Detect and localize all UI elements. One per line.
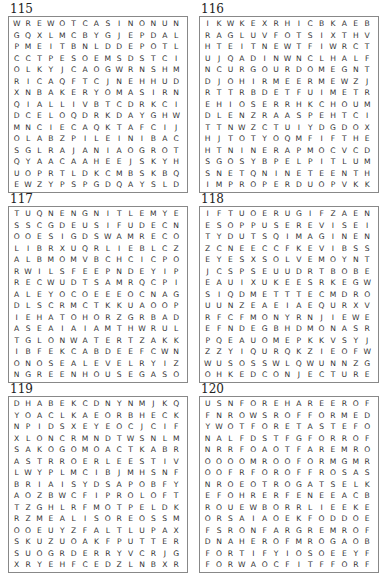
grid-letter: K bbox=[68, 398, 79, 410]
grid-letter: E bbox=[125, 346, 136, 358]
grid-letter: H bbox=[148, 76, 159, 88]
grid-letter: Z bbox=[236, 300, 247, 312]
grid-letter: U bbox=[213, 358, 224, 370]
grid-letter: Y bbox=[11, 410, 22, 422]
grid-letter: A bbox=[339, 323, 350, 335]
grid-letter: R bbox=[136, 358, 147, 370]
grid-letter: T bbox=[361, 254, 372, 266]
grid-letter: O bbox=[305, 456, 316, 468]
grid-letter: A bbox=[11, 456, 22, 468]
grid-letter: L bbox=[11, 467, 22, 479]
grid-letter: S bbox=[213, 525, 224, 537]
grid-letter: X bbox=[350, 300, 361, 312]
grid-letter: S bbox=[202, 168, 213, 180]
grid-letter: F bbox=[213, 323, 224, 335]
grid-letter: A bbox=[34, 133, 45, 145]
grid-letter: D bbox=[327, 513, 338, 525]
grid-letter: K bbox=[34, 444, 45, 456]
grid-letter: C bbox=[22, 53, 33, 65]
grid-letter: R bbox=[68, 433, 79, 445]
grid-letter: U bbox=[34, 536, 45, 548]
grid-letter: I bbox=[202, 208, 213, 220]
grid-letter: C bbox=[159, 220, 170, 232]
grid-letter: A bbox=[339, 208, 350, 220]
grid-letter: D bbox=[68, 548, 79, 560]
grid-letter: I bbox=[236, 41, 247, 53]
grid-letter: O bbox=[316, 513, 327, 525]
grid-letter: G bbox=[361, 358, 372, 370]
grid-letter: O bbox=[225, 220, 236, 232]
grid-letter: T bbox=[11, 335, 22, 347]
grid-letter: W bbox=[170, 110, 181, 122]
grid-letter: O bbox=[213, 502, 224, 514]
grid-letter: N bbox=[225, 243, 236, 255]
puzzle-number: 116 bbox=[201, 2, 379, 16]
grid-letter: I bbox=[293, 122, 304, 134]
grid-letter: E bbox=[339, 502, 350, 514]
grid-letter: E bbox=[236, 369, 247, 381]
grid-letter: T bbox=[213, 87, 224, 99]
grid-letter: H bbox=[213, 99, 224, 111]
grid-letter: O bbox=[213, 548, 224, 560]
grid-letter: L bbox=[22, 64, 33, 76]
grid-letter: N bbox=[225, 300, 236, 312]
grid-letter: I bbox=[11, 346, 22, 358]
grid-letter: R bbox=[225, 410, 236, 422]
grid-letter: Q bbox=[79, 243, 90, 255]
grid-letter: R bbox=[270, 145, 281, 157]
grid-letter: B bbox=[125, 168, 136, 180]
grid-letter: R bbox=[339, 525, 350, 537]
grid-letter: E bbox=[259, 266, 270, 278]
grid-letter: O bbox=[236, 358, 247, 370]
grid-letter: U bbox=[305, 87, 316, 99]
grid-letter: V bbox=[125, 548, 136, 560]
grid-letter: A bbox=[282, 145, 293, 157]
grid-letter: X bbox=[159, 559, 170, 571]
letter-grid: IKWKEXRHICBKAEBRAGLUVFOTSIXTHVHTEITNEWTF… bbox=[199, 16, 379, 193]
grid-letter: G bbox=[327, 122, 338, 134]
grid-letter: F bbox=[136, 122, 147, 134]
grid-letter: T bbox=[11, 502, 22, 514]
grid-letter: R bbox=[259, 110, 270, 122]
grid-letter: A bbox=[45, 323, 56, 335]
grid-letter: D bbox=[102, 179, 113, 191]
grid-letter: E bbox=[91, 266, 102, 278]
grid-letter: A bbox=[293, 398, 304, 410]
grid-letter: K bbox=[148, 99, 159, 111]
grid-letter: I bbox=[316, 41, 327, 53]
grid-letter: O bbox=[202, 513, 213, 525]
grid-letter: G bbox=[339, 64, 350, 76]
grid-letter: P bbox=[11, 41, 22, 53]
grid-letter: O bbox=[22, 410, 33, 422]
grid-letter: L bbox=[45, 110, 56, 122]
grid-letter: F bbox=[361, 525, 372, 537]
grid-letter: W bbox=[305, 358, 316, 370]
grid-letter: K bbox=[170, 410, 181, 422]
grid-letter: E bbox=[102, 156, 113, 168]
grid-letter: E bbox=[259, 289, 270, 301]
grid-letter: P bbox=[102, 490, 113, 502]
grid-letter: W bbox=[236, 559, 247, 571]
grid-letter: C bbox=[68, 122, 79, 134]
grid-letter: U bbox=[225, 64, 236, 76]
grid-letter: A bbox=[159, 525, 170, 537]
grid-letter: T bbox=[259, 479, 270, 491]
grid-letter: P bbox=[45, 53, 56, 65]
grid-letter: E bbox=[34, 525, 45, 537]
grid-letter: F bbox=[236, 444, 247, 456]
grid-letter: B bbox=[91, 99, 102, 111]
grid-letter: N bbox=[159, 467, 170, 479]
grid-letter: O bbox=[282, 30, 293, 42]
grid-letter: O bbox=[148, 41, 159, 53]
grid-letter: J bbox=[114, 30, 125, 42]
grid-letter: E bbox=[282, 335, 293, 347]
grid-letter: K bbox=[57, 87, 68, 99]
grid-letter: C bbox=[213, 243, 224, 255]
grid-letter: O bbox=[202, 467, 213, 479]
grid-letter: P bbox=[170, 300, 181, 312]
grid-letter: S bbox=[148, 467, 159, 479]
grid-letter: S bbox=[57, 266, 68, 278]
grid-letter: O bbox=[225, 156, 236, 168]
grid-letter: A bbox=[236, 53, 247, 65]
grid-letter: N bbox=[213, 536, 224, 548]
